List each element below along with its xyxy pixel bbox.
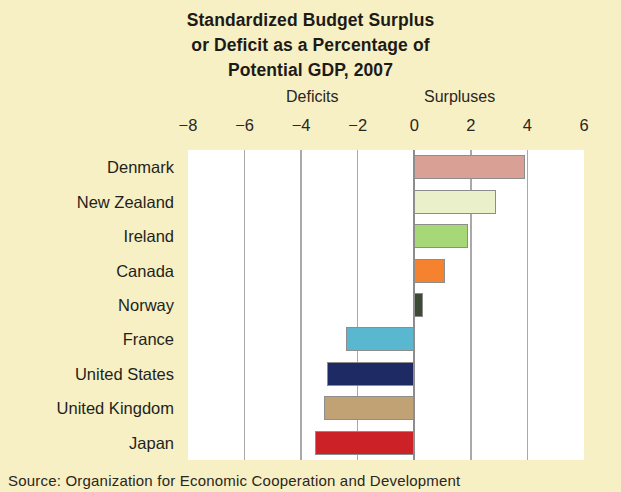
category-label: Ireland	[124, 227, 174, 246]
plot-area	[188, 150, 584, 460]
x-tick-label: 2	[466, 116, 475, 135]
category-label: United States	[75, 364, 174, 383]
bar	[414, 293, 422, 317]
bar	[327, 362, 415, 386]
category-label: United Kingdom	[57, 399, 174, 418]
category-label: Canada	[116, 261, 174, 280]
x-tick-label: −6	[235, 116, 254, 135]
x-tick-label: 6	[579, 116, 588, 135]
x-tick-label: −8	[179, 116, 198, 135]
category-label: Denmark	[107, 158, 174, 177]
chart-title-line-3: Potential GDP, 2007	[0, 58, 621, 83]
chart-title-line-2: or Deficit as a Percentage of	[0, 33, 621, 58]
x-tick-label: 4	[523, 116, 532, 135]
bar	[414, 190, 496, 214]
x-tick-label: −4	[292, 116, 311, 135]
x-tick-label: −2	[348, 116, 367, 135]
category-label: New Zealand	[77, 192, 174, 211]
category-label: Japan	[129, 433, 174, 452]
gridline	[244, 150, 246, 460]
gridline	[527, 150, 529, 460]
x-tick-label: 0	[410, 116, 419, 135]
gridline	[300, 150, 302, 460]
x-axis-tick-labels: −8−6−4−20246	[0, 116, 621, 138]
bar	[414, 155, 524, 179]
bar	[414, 224, 468, 248]
bar	[414, 259, 445, 283]
bar	[315, 431, 414, 455]
bar	[324, 396, 415, 420]
chart-title-line-1: Standardized Budget Surplus	[0, 8, 621, 33]
category-label: Norway	[118, 296, 174, 315]
deficits-label: Deficits	[286, 88, 338, 106]
category-label: France	[123, 330, 174, 349]
source-note: Source: Organization for Economic Cooper…	[8, 472, 460, 489]
category-labels: DenmarkNew ZealandIrelandCanadaNorwayFra…	[0, 150, 182, 460]
bar	[346, 327, 414, 351]
surpluses-label: Surpluses	[424, 88, 495, 106]
figure-root: Standardized Budget Surplus or Deficit a…	[0, 0, 621, 492]
chart-title: Standardized Budget Surplus or Deficit a…	[0, 8, 621, 83]
